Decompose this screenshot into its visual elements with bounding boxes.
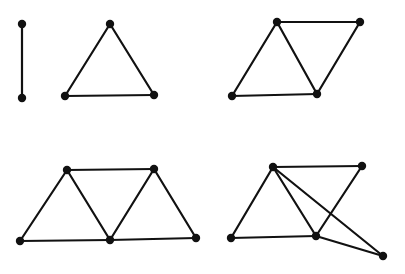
graph-vertex [16, 237, 24, 245]
graph-edge [273, 166, 362, 167]
graph-vertex [106, 20, 114, 28]
graph-vertex [313, 90, 321, 98]
graph-vertex [356, 18, 364, 26]
graph-5-crossing [227, 162, 387, 260]
graph-edge [110, 24, 154, 95]
graph-edge [232, 94, 317, 96]
graph-vertex [18, 94, 26, 102]
graph-vertex [192, 234, 200, 242]
graph-vertex [150, 91, 158, 99]
graph-edge [231, 236, 316, 238]
graph-vertex [358, 162, 366, 170]
graph-edge [67, 170, 110, 240]
graph-vertex [273, 18, 281, 26]
graph-edge [231, 167, 273, 238]
graph-edge [232, 22, 277, 96]
graph-vertex [228, 92, 236, 100]
graph-1-edge [18, 20, 26, 102]
graph-vertex [63, 166, 71, 174]
graph-3-two-triangles [228, 18, 364, 100]
graph-edge [65, 95, 154, 96]
graph-edge [67, 169, 154, 170]
graph-edge [65, 24, 110, 96]
graph-vertex [150, 165, 158, 173]
graph-edge [273, 167, 383, 256]
graph-vertex [379, 252, 387, 260]
graph-vertex [106, 236, 114, 244]
graph-edge [20, 170, 67, 241]
graph-vertex [269, 163, 277, 171]
graph-edge [317, 22, 360, 94]
graph-edge [277, 22, 317, 94]
graph-diagram-canvas [0, 0, 405, 274]
graph-edge [20, 240, 110, 241]
graph-2-triangle [61, 20, 158, 100]
graph-edge [154, 169, 196, 238]
graph-vertex [61, 92, 69, 100]
graph-edge [110, 238, 196, 240]
graph-edge [316, 166, 362, 236]
graph-4-three-triangles [16, 165, 200, 245]
graph-edge [273, 167, 316, 236]
graph-vertex [312, 232, 320, 240]
graph-vertex [18, 20, 26, 28]
graph-vertex [227, 234, 235, 242]
graph-edge [110, 169, 154, 240]
graph-edge [316, 236, 383, 256]
